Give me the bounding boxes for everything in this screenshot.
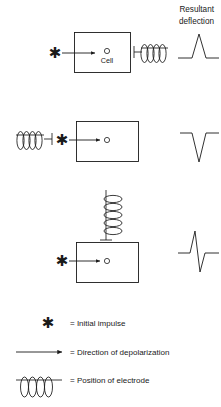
cell-box-row-2 [77,122,139,162]
legend: ✱ = Initial impulse = Direction of depol… [16,314,169,397]
legend-label-position-of-electrode: = Position of electrode [70,376,150,385]
waveform-row-1 [178,34,219,58]
legend-item-direction-of-depolarization: = Direction of depolarization [16,348,169,357]
diagram-row-1: ✱ Cell [49,33,219,73]
legend-label-initial-impulse: = Initial impulse [70,319,126,328]
cell-box-row-3 [77,243,139,283]
cell-nucleus-row-1 [104,48,109,53]
diagram-row-2: ✱ [16,122,219,163]
asterisk-icon: ✱ [42,314,55,332]
initial-impulse-asterisk-row-1: ✱ [49,44,62,62]
electrode-coil-row-2 [16,132,52,150]
header-line-1: Resultant [179,5,214,14]
cell-box-row-1 [75,33,131,73]
initial-impulse-asterisk-row-2: ✱ [56,131,69,149]
legend-item-position-of-electrode: = Position of electrode [16,376,150,397]
waveform-row-3 [178,231,219,272]
header-line-2: deflection [179,17,214,26]
legend-item-initial-impulse: ✱ = Initial impulse [42,314,126,332]
electrophysiology-diagram: Resultant deflection ✱ Cell [0,0,221,407]
waveform-row-2 [180,133,219,162]
diagram-row-3: ✱ [56,190,219,283]
cell-nucleus-row-3 [104,258,109,263]
initial-impulse-asterisk-row-3: ✱ [56,252,69,270]
cell-label-row-1: Cell [101,56,114,65]
electrode-coil-row-1 [134,45,168,63]
header-resultant-deflection: Resultant deflection [179,5,215,26]
electrode-coil-row-3 [100,190,122,240]
cell-nucleus-row-2 [104,137,109,142]
legend-label-direction-of-depolarization: = Direction of depolarization [70,348,169,357]
